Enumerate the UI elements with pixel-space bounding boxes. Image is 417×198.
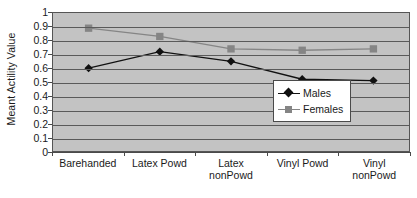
x-tick-mark xyxy=(52,152,53,156)
legend-label-females: Females xyxy=(303,103,343,115)
y-tick-mark xyxy=(48,26,52,27)
data-point-females-4 xyxy=(370,45,377,52)
y-tick-mark xyxy=(48,124,52,125)
x-tick-label: Latex Powd xyxy=(132,158,187,170)
y-tick-label: 0.3 xyxy=(20,105,48,116)
data-point-females-2 xyxy=(227,45,234,52)
y-tick-mark xyxy=(48,96,52,97)
line-chart: Meant Actility Value 10.90.80.70.60.50.4… xyxy=(0,0,417,198)
data-point-females-3 xyxy=(299,47,306,54)
x-tick-mark xyxy=(410,152,411,156)
y-tick-label: 0.8 xyxy=(20,35,48,46)
y-tick-label: 0.6 xyxy=(20,63,48,74)
y-axis-title: Meant Actility Value xyxy=(2,3,20,155)
legend-item-females: Females xyxy=(278,101,345,117)
x-axis-line xyxy=(52,152,410,153)
y-tick-label: 0.9 xyxy=(20,21,48,32)
y-tick-label: 0.4 xyxy=(20,91,48,102)
y-axis-tick-labels: 10.90.80.70.60.50.40.30.20.10 xyxy=(20,12,48,152)
data-point-males-2 xyxy=(227,57,235,65)
legend-item-males: Males xyxy=(278,85,345,101)
y-tick-mark xyxy=(48,82,52,83)
gridline xyxy=(53,139,409,140)
x-tick-mark xyxy=(124,152,125,156)
y-tick-mark xyxy=(48,54,52,55)
legend-marker-diamond-icon xyxy=(278,87,300,99)
gridline xyxy=(53,55,409,56)
y-tick-mark xyxy=(48,68,52,69)
y-tick-label: 0.5 xyxy=(20,77,48,88)
x-tick-label: Vinyl nonPowd xyxy=(352,158,396,181)
x-axis-tick-labels: BarehandedLatex PowdLatexnonPowdVinyl Po… xyxy=(52,158,410,190)
y-tick-label: 1 xyxy=(20,7,48,18)
y-tick-mark xyxy=(48,110,52,111)
y-tick-label: 0.1 xyxy=(20,133,48,144)
gridline xyxy=(53,125,409,126)
chart-legend: Males Females xyxy=(273,80,351,122)
series-line-males xyxy=(89,52,374,81)
x-tick-label: Barehanded xyxy=(59,158,116,170)
data-point-males-4 xyxy=(369,76,377,84)
x-tick-label: LatexnonPowd xyxy=(209,158,253,181)
legend-marker-square-icon xyxy=(278,103,300,115)
gridline xyxy=(53,69,409,70)
y-tick-mark xyxy=(48,138,52,139)
y-tick-mark xyxy=(48,40,52,41)
x-tick-mark xyxy=(267,152,268,156)
x-tick-mark xyxy=(338,152,339,156)
gridline xyxy=(53,111,409,112)
gridline xyxy=(53,97,409,98)
plot-area xyxy=(52,12,410,152)
y-tick-label: 0.7 xyxy=(20,49,48,60)
data-point-females-1 xyxy=(156,33,163,40)
legend-label-males: Males xyxy=(303,87,331,99)
y-tick-label: 0 xyxy=(20,147,48,158)
y-tick-mark xyxy=(48,12,52,13)
x-tick-label: Vinyl Powd xyxy=(277,158,329,170)
y-tick-label: 0.2 xyxy=(20,119,48,130)
gridline xyxy=(53,41,409,42)
gridline xyxy=(53,27,409,28)
x-tick-mark xyxy=(195,152,196,156)
gridline xyxy=(53,83,409,84)
